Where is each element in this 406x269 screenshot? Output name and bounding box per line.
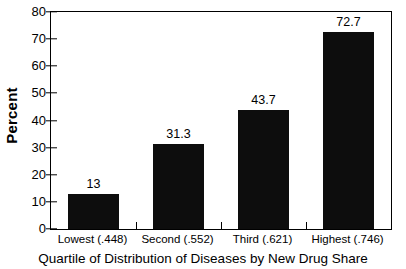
y-tick-mark [51, 120, 57, 121]
x-axis-tick-labels: Lowest (.448)Second (.552)Third (.621)Hi… [50, 233, 392, 249]
y-tick-mark [51, 147, 57, 148]
x-tick-label: Third (.621) [233, 233, 292, 245]
y-tick-label: 30 [32, 139, 46, 154]
x-tick-label: Second (.552) [141, 233, 213, 245]
x-tick-mark [306, 222, 307, 229]
bar-value-label: 31.3 [166, 127, 190, 141]
plot-area: 1331.343.772.7 [50, 11, 392, 230]
bar-value-label: 72.7 [336, 15, 360, 29]
bar [153, 144, 204, 229]
y-tick-label: 0 [39, 221, 46, 236]
y-tick-mark-outer [46, 66, 51, 67]
bar-chart-figure: Percent 01020304050607080 1331.343.772.7… [0, 0, 406, 269]
bar [68, 194, 119, 229]
y-tick-mark-outer [46, 147, 51, 148]
x-axis-title: Quartile of Distribution of Diseases by … [0, 251, 406, 266]
y-tick-label: 10 [32, 193, 46, 208]
x-tick-label: Highest (.746) [311, 233, 383, 245]
y-tick-mark-outer [46, 228, 51, 229]
y-axis-title: Percent [0, 0, 22, 230]
bar-value-label: 43.7 [251, 93, 275, 107]
y-tick-label: 70 [32, 31, 46, 46]
y-axis-tick-labels: 01020304050607080 [22, 0, 48, 269]
y-tick-mark-outer [46, 38, 51, 39]
y-tick-mark-outer [46, 120, 51, 121]
bar [238, 110, 289, 229]
y-tick-label: 40 [32, 112, 46, 127]
y-tick-mark-outer [46, 93, 51, 94]
y-tick-label: 20 [32, 166, 46, 181]
y-tick-mark [51, 228, 57, 229]
x-tick-mark [221, 222, 222, 229]
y-tick-mark [51, 11, 57, 12]
y-tick-mark [51, 38, 57, 39]
y-tick-mark [51, 174, 57, 175]
x-tick-label: Lowest (.448) [58, 233, 128, 245]
y-tick-mark-outer [46, 201, 51, 202]
y-tick-mark [51, 93, 57, 94]
y-tick-label: 80 [32, 4, 46, 19]
y-tick-mark [51, 201, 57, 202]
y-tick-label: 60 [32, 58, 46, 73]
y-tick-label: 50 [32, 85, 46, 100]
bar-value-label: 13 [87, 177, 101, 191]
y-tick-mark [51, 66, 57, 67]
y-tick-mark-outer [46, 11, 51, 12]
x-tick-mark [136, 222, 137, 229]
y-tick-mark-outer [46, 174, 51, 175]
bar [323, 32, 374, 229]
y-axis-title-text: Percent [3, 87, 20, 143]
